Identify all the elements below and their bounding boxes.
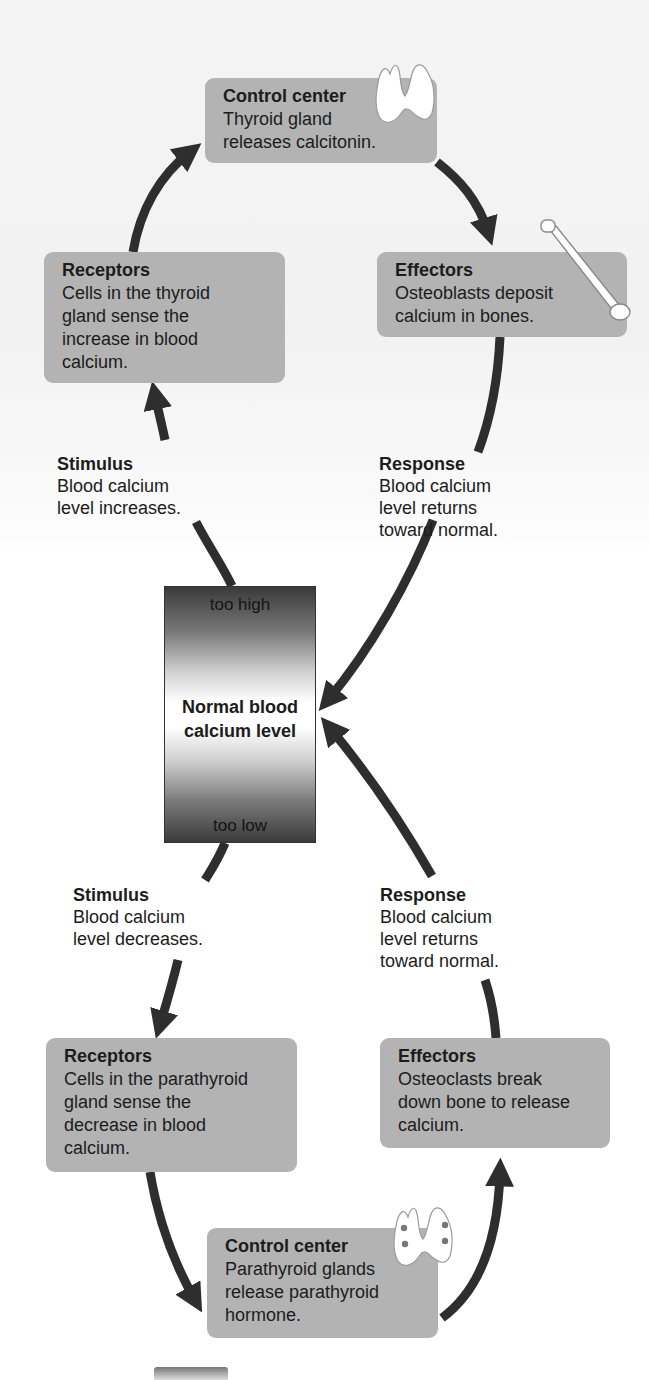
arrow-effectors-to-response-bottom xyxy=(485,980,496,1038)
effectors-title: Effectors xyxy=(398,1045,610,1068)
calcium-level-gauge: too high Normal blood calcium level too … xyxy=(164,586,316,843)
stimulus-increase-label: Stimulus Blood calcium level increases. xyxy=(57,453,181,519)
arrow-response-to-normal-bottom xyxy=(330,728,432,876)
effectors-box-osteoclasts: Effectors Osteoclasts break down bone to… xyxy=(380,1038,610,1148)
arrow-receptors-to-control-center-bottom xyxy=(150,1172,195,1300)
receptors-box-parathyroid: Receptors Cells in the parathyroid gland… xyxy=(46,1038,297,1172)
stimulus-description: Blood calcium level increases. xyxy=(57,475,181,519)
arrow-stimulus-to-receptors-bottom xyxy=(160,960,178,1025)
arrow-gauge-to-stimulus-bottom xyxy=(205,843,225,880)
parathyroid-glands-icon xyxy=(390,1200,460,1272)
response-title: Response xyxy=(380,884,499,906)
arrow-gauge-to-stimulus-top xyxy=(196,522,232,586)
arrow-stimulus-to-receptors-top xyxy=(155,395,165,440)
receptors-title: Receptors xyxy=(64,1045,297,1068)
receptors-box-thyroid: Receptors Cells in the thyroid gland sen… xyxy=(44,252,285,383)
gauge-too-low-label: too low xyxy=(165,816,315,836)
gauge-normal-label: Normal blood calcium level xyxy=(165,695,315,743)
cropped-element-fragment xyxy=(154,1367,228,1380)
receptors-title: Receptors xyxy=(62,259,285,282)
response-description: Blood calcium level returns toward norma… xyxy=(380,906,499,972)
stimulus-title: Stimulus xyxy=(73,884,203,906)
response-bottom-label: Response Blood calcium level returns tow… xyxy=(380,884,499,972)
arrow-response-to-normal-top xyxy=(328,520,433,700)
feedback-arrows xyxy=(0,0,649,1380)
effectors-description: Osteoclasts break down bone to release c… xyxy=(398,1068,610,1137)
arrow-control-center-to-effectors-top xyxy=(437,162,488,232)
thyroid-gland-icon xyxy=(372,58,442,128)
stimulus-description: Blood calcium level decreases. xyxy=(73,906,203,950)
arrow-effectors-to-response-top xyxy=(478,337,500,452)
stimulus-title: Stimulus xyxy=(57,453,181,475)
response-title: Response xyxy=(379,453,498,475)
response-description: Blood calcium level returns toward norma… xyxy=(379,475,498,541)
bone-icon xyxy=(536,218,636,326)
gauge-too-high-label: too high xyxy=(165,595,315,615)
receptors-description: Cells in the parathyroid gland sense the… xyxy=(64,1068,297,1160)
stimulus-decrease-label: Stimulus Blood calcium level decreases. xyxy=(73,884,203,950)
arrow-receptors-to-control-center-top xyxy=(133,152,190,252)
receptors-description: Cells in the thyroid gland sense the inc… xyxy=(62,282,285,374)
response-top-label: Response Blood calcium level returns tow… xyxy=(379,453,498,541)
